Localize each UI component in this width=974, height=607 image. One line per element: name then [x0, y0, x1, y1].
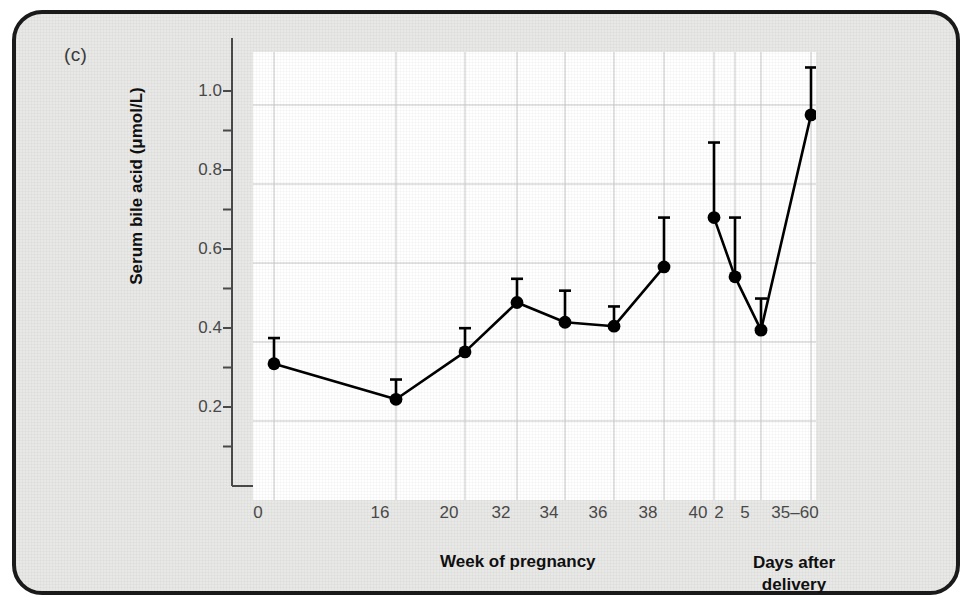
- y-axis-title: Serum bile acid (μmol/L): [127, 41, 147, 331]
- data-point-marker[interactable]: [608, 320, 621, 333]
- x-axis-title-secondary-line1: Days after: [739, 552, 849, 574]
- chart-canvas: [253, 52, 816, 500]
- data-point-marker[interactable]: [805, 108, 816, 121]
- y-axis-tick-label: 0.6: [176, 239, 222, 259]
- x-axis-tick-label: 34: [540, 503, 559, 523]
- data-line-segment: [274, 364, 396, 400]
- y-axis-tick-label: 0.2: [176, 397, 222, 417]
- data-point-marker[interactable]: [755, 324, 768, 337]
- x-axis-tick-label: 35–60: [771, 503, 818, 523]
- panel-label: (c): [64, 44, 87, 66]
- data-point-marker[interactable]: [708, 211, 721, 224]
- data-line-segment: [517, 303, 565, 323]
- x-axis-title-primary: Week of pregnancy: [440, 552, 596, 572]
- x-axis-tick-label: 2: [714, 503, 723, 523]
- data-point-marker[interactable]: [268, 357, 281, 370]
- y-axis-tick-label: 0.4: [176, 318, 222, 338]
- x-axis-tick-label: 38: [639, 503, 658, 523]
- data-line-segment: [761, 115, 811, 330]
- data-point-marker[interactable]: [658, 261, 671, 274]
- data-point-marker[interactable]: [511, 296, 524, 309]
- data-line-segment: [465, 303, 517, 352]
- x-axis-tick-label: 16: [371, 503, 390, 523]
- data-line-segment: [614, 267, 664, 326]
- figure-card: (c) Serum bile acid (μmol/L) Week of pre…: [12, 10, 960, 595]
- y-axis-tick-label: 0.8: [176, 160, 222, 180]
- x-axis-tick-label: 40: [689, 503, 708, 523]
- x-axis-tick-label: 20: [440, 503, 459, 523]
- figure-page: (c) Serum bile acid (μmol/L) Week of pre…: [0, 0, 974, 607]
- data-point-marker[interactable]: [390, 393, 403, 406]
- x-axis-tick-label: 5: [740, 503, 749, 523]
- x-axis-tick-label: 36: [589, 503, 608, 523]
- x-axis-tick-label: 32: [492, 503, 511, 523]
- data-line-segment: [565, 322, 614, 326]
- plot-area: [253, 52, 816, 500]
- x-axis-title-secondary: Days after delivery: [739, 552, 849, 596]
- data-line-segment: [396, 352, 465, 399]
- data-line-segment: [735, 277, 761, 330]
- data-point-marker[interactable]: [729, 270, 742, 283]
- data-point-marker[interactable]: [559, 316, 572, 329]
- data-line-segment: [714, 218, 735, 277]
- y-axis-tick-label: 1.0: [176, 81, 222, 101]
- x-axis-title-secondary-line2: delivery: [739, 574, 849, 596]
- data-point-marker[interactable]: [459, 345, 472, 358]
- x-axis-tick-label: 0: [253, 503, 262, 523]
